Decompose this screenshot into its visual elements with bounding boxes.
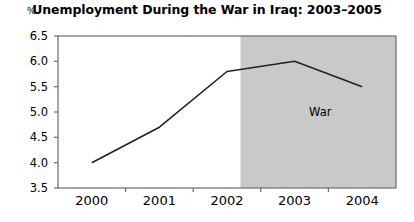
x-axis-tick-marks [126, 188, 329, 192]
y-tick-label: 5.5 [8, 81, 48, 93]
x-tick-label: 2002 [197, 193, 257, 208]
x-tick-label: 2003 [265, 193, 325, 208]
y-tick-label: 4.0 [8, 157, 48, 169]
plot-area [0, 0, 414, 222]
unemployment-line-chart: Unemployment During the War in Iraq: 200… [0, 0, 414, 222]
x-tick-label: 2004 [332, 193, 392, 208]
y-tick-label: 5.0 [8, 106, 48, 118]
y-tick-label: 6.5 [8, 30, 48, 42]
war-annotation-label: War [309, 105, 331, 119]
x-tick-label: 2000 [62, 193, 122, 208]
y-tick-label: 6.0 [8, 55, 48, 67]
y-tick-label: 4.5 [8, 131, 48, 143]
x-tick-label: 2001 [129, 193, 189, 208]
y-tick-label: 3.5 [8, 182, 48, 194]
